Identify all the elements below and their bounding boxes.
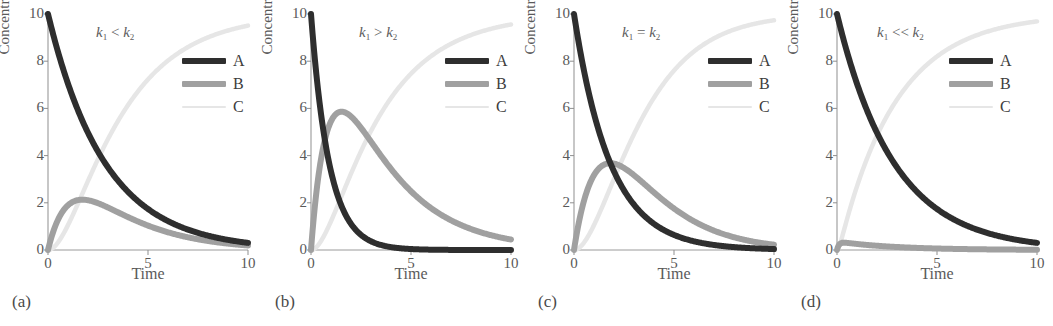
legend-swatch-icon (708, 58, 752, 64)
panel-label: (c) (538, 292, 557, 312)
legend-item-b[interactable]: B (949, 75, 1012, 93)
legend-label: A (759, 53, 771, 69)
chart-panel-c: 02468100510ConcentrationTime(c)k1 = k2AB… (526, 0, 789, 326)
y-tick-label: 8 (540, 53, 570, 68)
legend-item-b[interactable]: B (182, 75, 245, 93)
chart-panel-b: 02468100510ConcentrationTime(b)k1 > k2AB… (263, 0, 526, 326)
legend-swatch-icon (708, 106, 752, 108)
k1-subscript: 1 (366, 32, 371, 42)
y-axis-label: Concentration (0, 0, 13, 72)
k1-subscript: 1 (103, 32, 108, 42)
y-tick-label: 6 (803, 100, 833, 115)
legend-swatch-icon (708, 81, 752, 87)
k2-subscript: 2 (919, 32, 924, 42)
k-symbol: k (386, 24, 393, 40)
legend: ABC (445, 52, 508, 121)
k-symbol: k (649, 24, 656, 40)
panel-label: (b) (275, 292, 295, 312)
y-tick-label: 8 (14, 53, 44, 68)
legend-item-c[interactable]: C (949, 98, 1012, 116)
y-tick-label: 10 (803, 6, 833, 21)
legend-label: C (759, 99, 770, 115)
legend: ABC (182, 52, 245, 121)
y-axis-label: Concentration (259, 0, 276, 72)
k-symbol: k (359, 24, 366, 40)
k2-subscript: 2 (656, 32, 661, 42)
y-tick-label: 6 (540, 100, 570, 115)
legend-item-c[interactable]: C (708, 98, 771, 116)
k-symbol: k (96, 24, 103, 40)
y-tick-label: 4 (14, 148, 44, 163)
y-tick-labels: 0246810 (48, 14, 248, 250)
y-tick-label: 2 (540, 195, 570, 210)
legend-label: C (496, 99, 507, 115)
k1-subscript: 1 (884, 32, 889, 42)
legend-label: B (496, 76, 507, 92)
y-tick-label: 8 (277, 53, 307, 68)
y-tick-label: 4 (277, 148, 307, 163)
rate-comparison-annotation: k1 > k2 (359, 24, 397, 41)
legend-label: A (496, 53, 508, 69)
y-tick-label: 10 (277, 6, 307, 21)
legend-swatch-icon (949, 106, 993, 108)
y-tick-label: 0 (14, 242, 44, 257)
legend-label: B (1000, 76, 1011, 92)
x-axis-label: Time (311, 265, 511, 283)
legend-swatch-icon (182, 58, 226, 64)
x-axis-label: Time (48, 265, 248, 283)
legend-item-c[interactable]: C (445, 98, 508, 116)
y-tick-label: 2 (277, 195, 307, 210)
legend-swatch-icon (445, 106, 489, 108)
y-tick-label: 10 (14, 6, 44, 21)
legend-item-a[interactable]: A (445, 52, 508, 70)
legend-item-b[interactable]: B (708, 75, 771, 93)
legend-label: B (233, 76, 244, 92)
rate-comparison-annotation: k1 < k2 (96, 24, 134, 41)
y-axis-label: Concentration (785, 0, 802, 72)
legend-swatch-icon (445, 81, 489, 87)
comparison-operator: < (111, 24, 119, 40)
y-tick-label: 0 (803, 242, 833, 257)
legend-swatch-icon (182, 106, 226, 108)
legend: ABC (949, 52, 1012, 121)
legend-label: B (759, 76, 770, 92)
x-axis-label: Time (574, 265, 774, 283)
comparison-operator: << (892, 24, 909, 40)
k2-subscript: 2 (393, 32, 398, 42)
legend-item-b[interactable]: B (445, 75, 508, 93)
y-tick-label: 2 (14, 195, 44, 210)
x-axis-label: Time (837, 265, 1037, 283)
legend: ABC (708, 52, 771, 121)
k-symbol: k (877, 24, 884, 40)
legend-swatch-icon (445, 58, 489, 64)
k2-subscript: 2 (130, 32, 135, 42)
legend-label: A (1000, 53, 1012, 69)
legend-item-a[interactable]: A (182, 52, 245, 70)
y-tick-label: 4 (540, 148, 570, 163)
y-tick-label: 6 (277, 100, 307, 115)
legend-label: C (233, 99, 244, 115)
legend-item-a[interactable]: A (949, 52, 1012, 70)
panel-label: (d) (801, 292, 821, 312)
comparison-operator: = (637, 24, 645, 40)
y-tick-label: 10 (540, 6, 570, 21)
k-symbol: k (622, 24, 629, 40)
y-tick-labels: 0246810 (837, 14, 1037, 250)
y-tick-labels: 0246810 (311, 14, 511, 250)
y-tick-label: 6 (14, 100, 44, 115)
legend-label: C (1000, 99, 1011, 115)
chart-panel-d: 02468100510ConcentrationTime(d)k1 << k2A… (789, 0, 1052, 326)
panel-label: (a) (12, 292, 31, 312)
legend-label: A (233, 53, 245, 69)
y-axis-label: Concentration (522, 0, 539, 72)
y-tick-label: 2 (803, 195, 833, 210)
legend-swatch-icon (182, 81, 226, 87)
legend-item-a[interactable]: A (708, 52, 771, 70)
legend-item-c[interactable]: C (182, 98, 245, 116)
chart-panel-a: 02468100510ConcentrationTime(a)k1 < k2AB… (0, 0, 263, 326)
k-symbol: k (123, 24, 130, 40)
y-tick-label: 8 (803, 53, 833, 68)
rate-comparison-annotation: k1 << k2 (877, 24, 924, 41)
legend-swatch-icon (949, 58, 993, 64)
y-tick-label: 4 (803, 148, 833, 163)
